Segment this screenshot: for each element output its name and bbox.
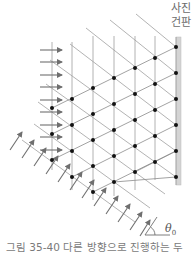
plate-label-line1: 사진 — [168, 2, 194, 16]
oblique-wave-arrows — [10, 132, 150, 236]
angle-label: θ0 — [165, 222, 176, 237]
plate-label: 사진 건판 — [168, 2, 194, 30]
plate-label-line2: 건판 — [168, 16, 194, 30]
figure-caption: 그림 35-40 다른 방향으로 진행하는 두 — [0, 240, 195, 255]
oblique-wavefronts — [22, 14, 176, 222]
interference-diagram — [0, 0, 195, 255]
angle-symbol: θ — [165, 222, 172, 235]
angle-subscript: 0 — [172, 229, 176, 237]
photographic-plate — [176, 37, 181, 185]
